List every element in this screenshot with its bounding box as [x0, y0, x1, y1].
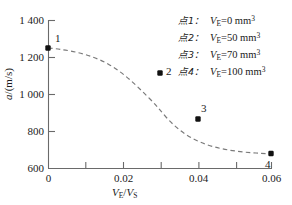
x-tick-label-002: 0.02 [109, 173, 138, 184]
y-tick-label-1400: 1 400 [0, 15, 44, 26]
chart-figure: 1 400 1 200 1 000 800 600 0 0.02 0.04 0.… [0, 0, 292, 205]
x-axis-title-denominator-sub: S [133, 191, 137, 200]
legend-label-point-3: 点3： [178, 47, 210, 61]
x-axis-ticks [86, 162, 272, 169]
data-point-1 [45, 45, 50, 50]
legend-eq-3: =70 mm [221, 49, 256, 60]
legend: 点1： VE=0 mm3 点2： VE=50 mm3 点3： VE=70 mm3… [178, 13, 265, 81]
y-tick-label-800: 800 [0, 126, 44, 137]
legend-value-point-4: VE=100 mm3 [210, 65, 265, 79]
legend-sup-3: 3 [256, 48, 260, 57]
data-point-label-2: 2 [166, 66, 172, 77]
data-point-label-1: 1 [55, 33, 61, 44]
x-axis-title: VE/VS [112, 186, 137, 200]
x-tick-label-004: 0.04 [184, 173, 213, 184]
legend-sup-1: 3 [251, 14, 255, 23]
y-axis-title: a/(m/s) [2, 54, 14, 114]
legend-row-1: 点1： VE=0 mm3 [178, 13, 265, 30]
data-point-3 [195, 116, 200, 121]
legend-row-2: 点2： VE=50 mm3 [178, 30, 265, 47]
legend-eq-4: =100 mm [221, 66, 262, 77]
legend-eq-2: =50 mm [221, 32, 256, 43]
x-axis-title-numerator-var: V [112, 186, 119, 198]
x-tick-label-006: 0.06 [257, 173, 286, 184]
legend-value-point-1: VE=0 mm3 [210, 14, 255, 28]
data-point-label-4: 4 [265, 159, 271, 170]
data-point-label-3: 3 [201, 103, 207, 114]
y-axis-title-var: a [2, 94, 14, 100]
legend-label-point-2: 点2： [178, 30, 210, 44]
legend-value-point-3: VE=70 mm3 [210, 48, 260, 62]
legend-row-3: 点3： VE=70 mm3 [178, 47, 265, 64]
data-point-2 [157, 70, 162, 75]
legend-row-4: 点4： VE=100 mm3 [178, 64, 265, 81]
legend-label-point-1: 点1： [178, 13, 210, 27]
y-axis-title-unit: /(m/s) [2, 68, 14, 94]
data-point-4 [268, 151, 273, 156]
legend-sup-2: 3 [256, 31, 260, 40]
legend-value-point-2: VE=50 mm3 [210, 31, 260, 45]
x-tick-label-0: 0 [34, 173, 63, 184]
legend-label-point-4: 点4： [178, 64, 210, 78]
legend-eq-1: =0 mm [221, 15, 251, 26]
legend-sup-4: 3 [262, 65, 266, 74]
